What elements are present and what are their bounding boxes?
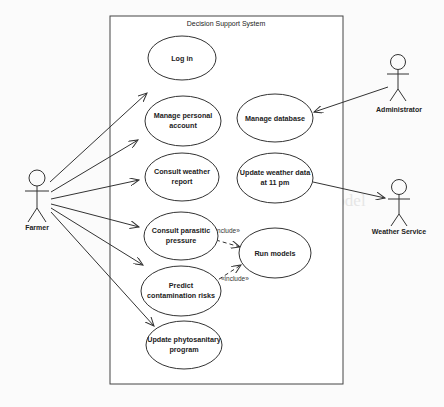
use-case-update-weather[interactable]: Update weather data at 11 pm bbox=[237, 153, 313, 203]
actor-weather-service[interactable] bbox=[388, 180, 410, 227]
use-case-label: pressure bbox=[166, 236, 196, 245]
use-case-label: Predict bbox=[169, 281, 194, 290]
use-case-label: at 11 pm bbox=[261, 178, 290, 187]
use-case-manage-db[interactable]: Manage database bbox=[237, 94, 313, 142]
use-case-label: Manage database bbox=[245, 114, 305, 123]
use-case-label: Consult parasitic bbox=[152, 226, 210, 235]
use-case-label: Manage personal bbox=[154, 111, 213, 120]
actor-head-icon bbox=[392, 180, 407, 195]
actor-head-icon bbox=[391, 55, 406, 70]
actor-label-weather-service: Weather Service bbox=[372, 228, 426, 235]
actor-label-administrator: Administrator bbox=[376, 106, 422, 113]
use-case-label: Log in bbox=[171, 54, 193, 63]
use-case-label: program bbox=[169, 345, 198, 354]
use-case-label: contamination risks bbox=[147, 291, 215, 300]
actor-administrator[interactable] bbox=[387, 55, 409, 102]
use-case-manage-account[interactable]: Manage personal account bbox=[145, 96, 221, 146]
system-title: Decision Support System bbox=[187, 20, 266, 28]
use-case-update-program[interactable]: Update phytosanitary program bbox=[146, 321, 222, 369]
use-case-login[interactable]: Log in bbox=[148, 36, 216, 80]
actor-label-farmer: Farmer bbox=[25, 224, 49, 231]
use-case-diagram: Decision Support System Farmer Administr… bbox=[0, 0, 444, 407]
use-case-run-models[interactable]: Run models bbox=[239, 228, 311, 278]
use-case-label: Consult weather bbox=[154, 167, 210, 176]
use-case-predict-risks[interactable]: Predict contamination risks bbox=[141, 266, 221, 316]
actor-farmer[interactable] bbox=[25, 170, 49, 222]
use-case-consult-parasitic[interactable]: Consult parasitic pressure bbox=[144, 212, 218, 260]
system-boundary: Decision Support System bbox=[110, 16, 343, 384]
use-case-label: Update phytosanitary bbox=[147, 335, 221, 344]
use-case-label: Update weather data bbox=[240, 168, 311, 177]
use-case-label: Run models bbox=[254, 249, 295, 258]
use-case-consult-weather[interactable]: Consult weather report bbox=[145, 153, 219, 201]
include-label-2: «include» bbox=[221, 275, 249, 282]
use-case-label: account bbox=[169, 121, 197, 130]
use-case-label: report bbox=[172, 177, 193, 186]
actor-head-icon bbox=[29, 170, 45, 186]
